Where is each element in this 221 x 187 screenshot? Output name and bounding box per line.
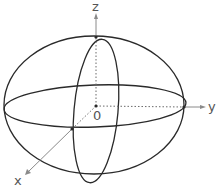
x-intercept-point [70,127,73,130]
y-intercept-point [182,105,185,108]
y-axis-arrow-icon [200,105,206,109]
origin-label: 0 [93,108,101,123]
y-axis-hidden [96,106,184,107]
x-axis-label: x [14,173,22,187]
z-axis-label: z [92,0,99,14]
ellipsoid-diagram: z y x 0 [0,0,221,187]
outer-ellipse [4,36,184,174]
z-intercept-point [94,35,97,38]
y-axis-label: y [208,99,216,114]
